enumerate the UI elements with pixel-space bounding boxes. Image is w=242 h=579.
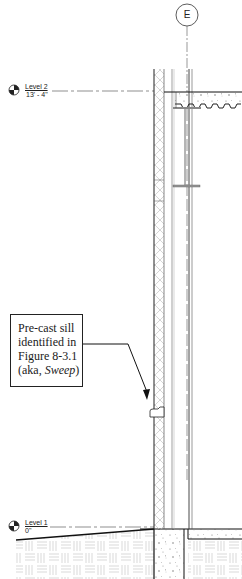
level-2-elevation: 13' - 4" [26,91,48,98]
grid-head-label: E [178,6,196,24]
callout-line-4-italic: Sweep [45,363,76,377]
level-1-elevation: 0" [25,527,31,534]
callout-box: Pre-cast sill identified in Figure 8-3.1… [10,314,83,387]
callout-line-1: Pre-cast sill [18,321,82,335]
callout-leader-arrow [83,344,150,400]
exterior-wall [154,69,192,529]
callout-line-4-prefix: (aka, [18,363,45,377]
callout-line-2: identified in [18,335,82,349]
slab-on-grade [188,529,242,539]
callout-line-4-suffix: ) [75,363,79,377]
level-1-name: Level 1 [25,519,48,526]
steel-column [173,109,200,480]
floor-slab-level-2 [164,92,242,109]
level-2-name: Level 2 [25,83,48,90]
callout-line-3: Figure 8-3.1 [18,349,82,363]
callout-line-4: (aka, Sweep) [18,363,82,377]
